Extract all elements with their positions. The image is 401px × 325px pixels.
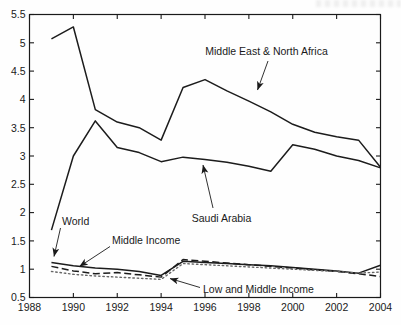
chart-canvas: 1988199019921994199619982000200220040.51…	[0, 0, 401, 325]
y-tick-label: 4	[20, 93, 26, 105]
y-tick-label: 5.5	[11, 8, 26, 20]
annotation-label-world: World	[62, 215, 89, 227]
x-tick-label: 2002	[325, 301, 349, 313]
line-chart-figure: 1988199019921994199619982000200220040.51…	[0, 0, 401, 325]
annotation-arrow-saudi-arabia	[203, 165, 213, 208]
y-tick-label: 2.5	[11, 178, 26, 190]
x-tick-label: 1998	[237, 301, 261, 313]
x-tick-label: 2004	[369, 301, 393, 313]
y-tick-label: 4.5	[11, 65, 26, 77]
x-tick-label: 1992	[106, 301, 130, 313]
series-line-low-and-middle-income	[51, 264, 380, 280]
series-line-world	[51, 261, 380, 275]
y-tick-label: 2	[20, 206, 26, 218]
y-tick-label: 3.5	[11, 122, 26, 134]
x-tick-label: 1994	[149, 301, 173, 313]
annotation-label-low-and-middle-income: Low and Middle Income	[203, 283, 314, 295]
annotation-arrow-low-and-middle-income	[170, 279, 200, 288]
y-tick-label: 3	[20, 150, 26, 162]
annotation-label-middle-income: Middle Income	[112, 234, 180, 246]
annotation-label-middle-east-north-africa: Middle East & North Africa	[205, 45, 328, 57]
y-tick-label: 1.5	[11, 235, 26, 247]
x-tick-label: 2000	[281, 301, 305, 313]
annotation-label-saudi-arabia: Saudi Arabia	[192, 212, 252, 224]
annotation-arrow-middle-income	[80, 247, 111, 267]
y-tick-label: 1	[20, 263, 26, 275]
y-tick-label: 0.5	[11, 291, 26, 303]
x-tick-label: 1990	[62, 301, 86, 313]
annotation-arrow-world	[54, 228, 61, 257]
y-tick-label: 5	[20, 37, 26, 49]
annotation-arrow-middle-east-north-africa	[258, 61, 269, 90]
x-tick-label: 1996	[193, 301, 217, 313]
